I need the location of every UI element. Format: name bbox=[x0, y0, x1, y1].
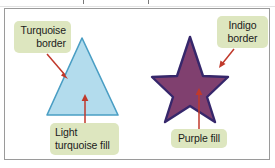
callout-light-turquoise-fill: Light turquoise fill bbox=[50, 123, 119, 155]
scan-artifact-strip bbox=[0, 0, 275, 7]
scan-tick-mark bbox=[83, 0, 84, 4]
callout-turquoise-border: Turquoise border bbox=[14, 21, 71, 53]
callout-line: Purple fill bbox=[176, 132, 222, 145]
callout-line: Indigo bbox=[222, 19, 263, 32]
callout-line: turquoise fill bbox=[55, 139, 114, 152]
callout-purple-fill: Purple fill bbox=[171, 129, 227, 148]
callout-line: border bbox=[222, 32, 263, 45]
scan-tick-mark bbox=[148, 0, 149, 4]
callout-line: Light bbox=[55, 126, 114, 139]
callout-line: Turquoise bbox=[19, 24, 66, 37]
callout-line: border bbox=[19, 37, 66, 50]
callout-indigo-border: Indigo border bbox=[217, 16, 268, 48]
